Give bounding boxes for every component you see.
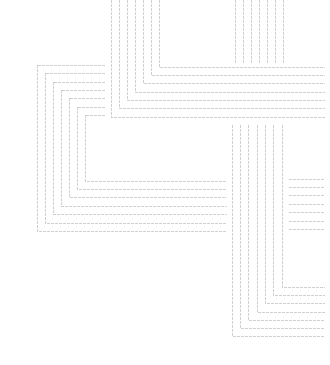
line-path xyxy=(257,125,325,312)
line-path xyxy=(77,107,227,189)
line-path xyxy=(143,0,325,83)
line-path xyxy=(45,73,227,223)
line-path xyxy=(248,125,325,320)
line-path xyxy=(151,0,325,75)
top-center-nested-corners xyxy=(111,0,325,117)
bottom-right-nested-corners xyxy=(232,125,325,336)
line-art-canvas xyxy=(0,0,330,365)
line-path xyxy=(53,82,227,214)
top-right-vertical-stubs xyxy=(235,0,283,63)
right-horizontal-stubs xyxy=(289,179,325,229)
left-nested-brackets xyxy=(37,65,227,231)
line-path xyxy=(273,125,325,295)
line-path xyxy=(85,115,227,181)
line-path xyxy=(127,0,325,100)
line-path xyxy=(69,98,227,197)
line-path xyxy=(265,125,325,303)
line-path xyxy=(159,0,325,67)
line-path xyxy=(282,125,325,287)
line-path xyxy=(232,125,325,336)
line-path xyxy=(135,0,325,92)
